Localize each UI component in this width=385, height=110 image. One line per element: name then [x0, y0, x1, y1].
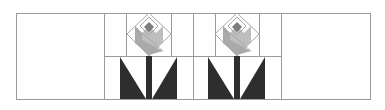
tulip-quilt-diagram — [0, 0, 385, 110]
stem — [234, 56, 240, 99]
leaf-right — [152, 57, 177, 99]
stem — [146, 56, 152, 99]
grid-lines — [17, 13, 371, 100]
leaf-left — [120, 57, 146, 99]
leaf-left — [208, 57, 234, 99]
leaf-right — [240, 57, 265, 99]
